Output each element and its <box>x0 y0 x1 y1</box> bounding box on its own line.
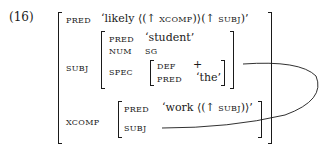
structure-sharing-curve <box>0 0 326 149</box>
